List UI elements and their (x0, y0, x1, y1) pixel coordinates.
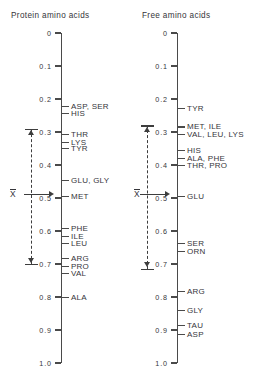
data-tick-free-4 (178, 158, 185, 159)
data-tick-free-10 (178, 310, 185, 311)
axis-tick-label-free-1.0: 1.0 (138, 359, 168, 368)
data-label-free-0: TYR (187, 104, 204, 113)
mean-symbol-protein: X (10, 189, 16, 199)
data-label-free-6: GLU (187, 192, 204, 201)
data-tick-free-1 (178, 126, 185, 127)
range-stem-protein (31, 129, 32, 264)
data-tick-protein-7 (62, 228, 69, 229)
axis-tick-label-protein-0.8: 0.8 (22, 293, 52, 302)
data-tick-protein-5 (62, 180, 69, 181)
axis-tick-label-free-0.9: 0.9 (138, 326, 168, 335)
data-label-protein-1: HIS (71, 109, 85, 118)
axis-line-protein (61, 33, 62, 363)
data-tick-free-7 (178, 243, 185, 244)
data-tick-free-2 (178, 134, 185, 135)
axis-line-free (177, 33, 178, 363)
mean-arrow-shaft-protein (24, 194, 50, 195)
axis-tick-free-0.3 (171, 131, 177, 132)
data-tick-free-6 (178, 196, 185, 197)
data-tick-protein-3 (62, 142, 69, 143)
axis-tick-protein-0.6 (55, 230, 61, 231)
mean-symbol-glyph-protein: X (10, 189, 16, 199)
axis-tick-protein-0.8 (55, 296, 61, 297)
mean-arrow-shaft-free (140, 194, 166, 195)
data-label-protein-6: MET (71, 192, 89, 201)
panel-free-amino-acids: Free amino acids 00.10.20.30.40.50.60.70… (134, 0, 268, 376)
data-tick-free-8 (178, 251, 185, 252)
range-arrow-up-free (144, 127, 150, 132)
axis-tick-protein-0.3 (55, 131, 61, 132)
axis-tick-label-protein-0: 0 (22, 29, 52, 38)
data-tick-protein-9 (62, 243, 69, 244)
range-cap-bottom-free (141, 269, 154, 270)
range-stem-free (147, 125, 148, 269)
data-tick-protein-4 (62, 148, 69, 149)
axis-tick-protein-0.5 (55, 197, 61, 198)
axis-tick-protein-0 (55, 32, 61, 33)
axis-tick-protein-1.0 (55, 362, 61, 363)
axis-tick-label-protein-0.1: 0.1 (22, 62, 52, 71)
data-label-protein-4: TYR (71, 144, 88, 153)
axis-tick-protein-0.1 (55, 65, 61, 66)
data-label-free-8: ORN (187, 247, 206, 256)
data-tick-protein-13 (62, 297, 69, 298)
axis-tick-label-free-0: 0 (138, 29, 168, 38)
data-tick-protein-2 (62, 134, 69, 135)
panel-title-protein: Protein amino acids (11, 11, 90, 20)
axis-tick-label-free-0.7: 0.7 (138, 260, 168, 269)
data-tick-free-9 (178, 291, 185, 292)
axis-tick-label-protein-0.6: 0.6 (22, 227, 52, 236)
axis-tick-free-0.4 (171, 164, 177, 165)
data-tick-protein-10 (62, 258, 69, 259)
data-tick-free-5 (178, 165, 185, 166)
axis-tick-free-0.7 (171, 263, 177, 264)
panel-protein-amino-acids: Protein amino acids 00.10.20.30.40.50.60… (0, 0, 134, 376)
axis-tick-free-0 (171, 32, 177, 33)
axis-tick-protein-0.4 (55, 164, 61, 165)
axis-tick-label-protein-0.2: 0.2 (22, 95, 52, 104)
range-arrow-up-protein (28, 130, 34, 135)
range-arrow-down-protein (28, 258, 34, 263)
mean-arrow-head-free (165, 191, 170, 197)
axis-tick-protein-0.9 (55, 329, 61, 330)
data-label-protein-9: LEU (71, 239, 87, 248)
axis-tick-label-free-0.4: 0.4 (138, 161, 168, 170)
data-label-protein-13: ALA (71, 293, 87, 302)
axis-tick-free-0.6 (171, 230, 177, 231)
data-tick-protein-1 (62, 113, 69, 114)
data-tick-protein-12 (62, 273, 69, 274)
axis-tick-free-0.1 (171, 65, 177, 66)
axis-tick-label-free-0.3: 0.3 (138, 128, 168, 137)
data-label-protein-12: VAL (71, 269, 86, 278)
axis-tick-free-0.9 (171, 329, 177, 330)
axis-tick-label-protein-0.4: 0.4 (22, 161, 52, 170)
axis-tick-protein-0.7 (55, 263, 61, 264)
data-tick-protein-11 (62, 266, 69, 267)
axis-tick-label-free-0.1: 0.1 (138, 62, 168, 71)
axis-tick-free-0.8 (171, 296, 177, 297)
axis-tick-label-protein-1.0: 1.0 (22, 359, 52, 368)
data-tick-free-0 (178, 108, 185, 109)
data-tick-free-11 (178, 325, 185, 326)
data-label-free-2: VAL, LEU, LYS (187, 130, 244, 139)
axis-tick-free-0.5 (171, 197, 177, 198)
data-tick-protein-6 (62, 196, 69, 197)
data-label-protein-5: GLU, GLY (71, 176, 109, 185)
data-label-free-10: GLY (187, 306, 203, 315)
axis-tick-label-protein-0.9: 0.9 (22, 326, 52, 335)
data-label-free-9: ARG (187, 287, 205, 296)
data-tick-free-3 (178, 150, 185, 151)
axis-tick-label-free-0.6: 0.6 (138, 227, 168, 236)
amino-acid-scale-figure: Protein amino acids 00.10.20.30.40.50.60… (0, 0, 268, 376)
range-cap-bottom-protein (25, 264, 38, 265)
axis-tick-label-free-0.8: 0.8 (138, 293, 168, 302)
mean-symbol-free: X (134, 189, 140, 199)
mean-symbol-glyph-free: X (134, 189, 140, 199)
data-tick-free-12 (178, 334, 185, 335)
axis-tick-free-0.2 (171, 98, 177, 99)
data-label-free-12: ASP (187, 330, 204, 339)
axis-tick-protein-0.2 (55, 98, 61, 99)
mean-arrow-head-protein (49, 191, 54, 197)
range-arrow-down-free (144, 262, 150, 267)
panel-title-free: Free amino acids (142, 11, 210, 20)
